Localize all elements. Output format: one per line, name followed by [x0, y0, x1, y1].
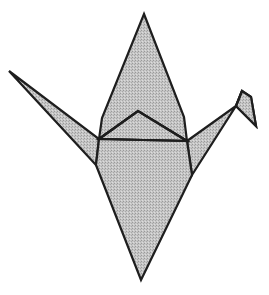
left-wing-tail — [9, 71, 99, 165]
crane-body — [96, 139, 192, 280]
origami-crane-drawing — [0, 0, 269, 295]
